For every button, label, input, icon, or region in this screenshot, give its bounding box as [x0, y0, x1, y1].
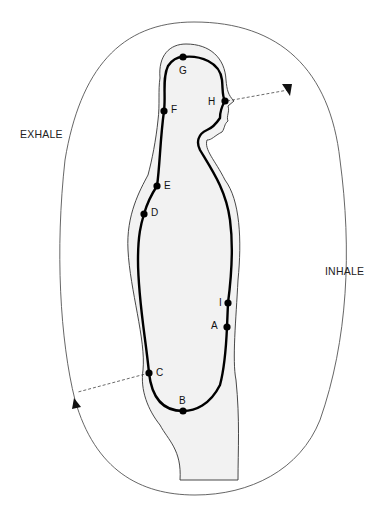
point-F	[160, 107, 167, 114]
exhale-arrow-icon	[72, 398, 81, 409]
point-I	[224, 299, 231, 306]
diagram-canvas	[0, 0, 385, 513]
point-B	[179, 407, 186, 414]
point-label-I: I	[219, 298, 222, 308]
point-E	[153, 182, 160, 189]
point-label-H: H	[208, 97, 215, 107]
point-label-A: A	[211, 321, 218, 331]
exhale-label: EXHALE	[20, 128, 63, 140]
point-label-E: E	[164, 181, 171, 191]
breathing-diagram: EXHALE INHALE A B C D E F G H I	[0, 0, 385, 513]
point-label-C: C	[156, 368, 163, 378]
figure-caption	[50, 505, 340, 513]
point-D	[140, 210, 147, 217]
inhale-label: INHALE	[325, 265, 364, 277]
point-A	[223, 323, 230, 330]
inhale-ray	[227, 90, 288, 101]
point-H	[221, 97, 228, 104]
body-silhouette	[128, 44, 240, 480]
point-C	[145, 369, 152, 376]
point-label-G: G	[179, 66, 187, 76]
point-label-F: F	[171, 105, 177, 115]
inhale-arrow-icon	[282, 84, 292, 96]
exhale-ray	[78, 373, 149, 392]
point-label-B: B	[179, 396, 186, 406]
point-G	[179, 53, 186, 60]
point-label-D: D	[151, 208, 158, 218]
